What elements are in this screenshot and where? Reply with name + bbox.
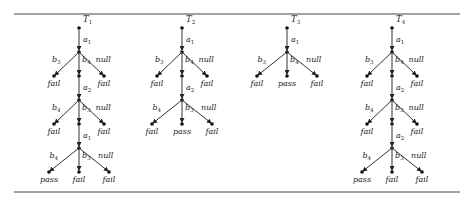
left-edge-label: b3 bbox=[155, 55, 164, 65]
spine-label: a2 bbox=[186, 83, 194, 93]
spine-label: a2 bbox=[396, 131, 404, 141]
left-edge-label: b4 bbox=[365, 103, 374, 113]
left-leaf-node bbox=[155, 74, 159, 78]
spine-label: a1 bbox=[83, 131, 91, 141]
mid-edge-label: b4 bbox=[395, 55, 404, 65]
left-leaf-node bbox=[52, 122, 56, 126]
tree-title: T4 bbox=[396, 14, 406, 25]
left-edge-label: b4 bbox=[52, 103, 61, 113]
right-edge-label: null bbox=[201, 103, 217, 112]
mid-edge-label: b4 bbox=[290, 55, 299, 65]
right-leaf-node bbox=[415, 122, 419, 126]
left-leaf-node bbox=[47, 170, 51, 174]
left-leaf-label: fail bbox=[360, 79, 374, 88]
left-leaf-label: pass bbox=[353, 175, 371, 184]
left-leaf-label: fail bbox=[360, 127, 374, 136]
mid-leaf-label: pass bbox=[173, 127, 191, 136]
left-edge-label: b4 bbox=[362, 151, 371, 161]
mid-node bbox=[180, 122, 184, 126]
tree-title: T1 bbox=[83, 14, 92, 25]
tree-root-node bbox=[390, 26, 394, 30]
mid-leaf-label: fail bbox=[385, 175, 399, 184]
left-leaf-label: fail bbox=[47, 79, 61, 88]
mid-node bbox=[390, 74, 394, 78]
spine-label: a1 bbox=[291, 35, 299, 45]
left-leaf-node bbox=[255, 74, 259, 78]
mid-leaf-label: fail bbox=[72, 175, 86, 184]
mid-node bbox=[180, 74, 184, 78]
spine-label: a1 bbox=[186, 35, 194, 45]
left-leaf-label: fail bbox=[145, 127, 159, 136]
mid-edge-label: b3 bbox=[395, 103, 404, 113]
left-edge-label: b3 bbox=[52, 55, 61, 65]
left-leaf-node bbox=[365, 74, 369, 78]
mid-node bbox=[390, 122, 394, 126]
tree-title: T3 bbox=[291, 14, 301, 25]
right-leaf-node bbox=[420, 170, 424, 174]
left-edge-label: b4 bbox=[152, 103, 161, 113]
right-edge-label: null bbox=[409, 55, 425, 64]
left-leaf-label: fail bbox=[250, 79, 264, 88]
right-leaf-node bbox=[415, 74, 419, 78]
left-leaf-label: fail bbox=[47, 127, 61, 136]
right-edge-label: null bbox=[409, 103, 425, 112]
left-leaf-node bbox=[52, 74, 56, 78]
mid-leaf-label: pass bbox=[278, 79, 296, 88]
right-edge-label: null bbox=[96, 103, 112, 112]
left-edge-label: b3 bbox=[365, 55, 374, 65]
mid-node bbox=[77, 122, 81, 126]
right-leaf-node bbox=[102, 122, 106, 126]
right-edge-label: null bbox=[98, 151, 114, 160]
right-edge-label: null bbox=[306, 55, 322, 64]
right-leaf-label: fail bbox=[102, 175, 116, 184]
left-leaf-node bbox=[360, 170, 364, 174]
right-leaf-label: fail bbox=[97, 127, 111, 136]
spine-label: a2 bbox=[83, 83, 91, 93]
mid-edge-label: b4 bbox=[82, 55, 91, 65]
mid-edge-label: b4 bbox=[185, 55, 194, 65]
left-leaf-label: fail bbox=[150, 79, 164, 88]
right-leaf-label: fail bbox=[200, 79, 214, 88]
mid-node bbox=[285, 74, 289, 78]
right-leaf-label: fail bbox=[415, 175, 429, 184]
tree-root-node bbox=[77, 26, 81, 30]
right-edge-label: null bbox=[199, 55, 215, 64]
tree-title: T2 bbox=[186, 14, 195, 25]
right-leaf-node bbox=[210, 122, 214, 126]
tree-root-node bbox=[180, 26, 184, 30]
right-leaf-label: fail bbox=[410, 79, 424, 88]
right-edge-label: null bbox=[96, 55, 112, 64]
mid-edge-label: b3 bbox=[82, 151, 91, 161]
tree-diagram-figure: T1a1b3failnullfailb4a2b4failnullfailb3a1… bbox=[0, 0, 473, 201]
left-leaf-label: pass bbox=[40, 175, 58, 184]
left-edge-label: b3 bbox=[257, 55, 266, 65]
right-leaf-node bbox=[102, 74, 106, 78]
right-leaf-node bbox=[107, 170, 111, 174]
right-leaf-label: fail bbox=[310, 79, 324, 88]
mid-node bbox=[77, 170, 81, 174]
left-leaf-node bbox=[365, 122, 369, 126]
right-leaf-node bbox=[315, 74, 319, 78]
mid-edge-label: b3 bbox=[185, 103, 194, 113]
left-leaf-node bbox=[150, 122, 154, 126]
trees-group: T1a1b3failnullfailb4a2b4failnullfailb3a1… bbox=[40, 14, 429, 184]
spine-label: a1 bbox=[396, 35, 404, 45]
right-edge-label: null bbox=[411, 151, 427, 160]
right-leaf-label: fail bbox=[97, 79, 111, 88]
mid-node bbox=[77, 74, 81, 78]
tree-root-node bbox=[285, 26, 289, 30]
mid-edge-label: b3 bbox=[82, 103, 91, 113]
mid-edge-label: b3 bbox=[395, 151, 404, 161]
spine-label: a2 bbox=[396, 83, 404, 93]
mid-node bbox=[390, 170, 394, 174]
right-leaf-label: fail bbox=[205, 127, 219, 136]
left-edge-label: b4 bbox=[49, 151, 58, 161]
right-leaf-node bbox=[205, 74, 209, 78]
right-leaf-label: fail bbox=[410, 127, 424, 136]
spine-label: a1 bbox=[83, 35, 91, 45]
